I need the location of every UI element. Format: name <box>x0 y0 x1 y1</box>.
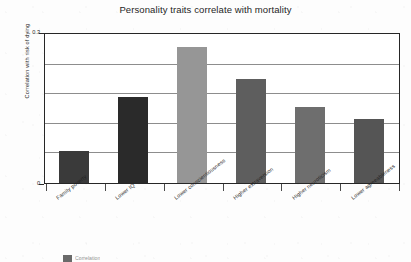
legend-label: Correlation <box>75 255 100 261</box>
bar <box>236 79 266 183</box>
x-axis-tick-mark <box>340 184 341 191</box>
y-axis-tick-label-min: 0 <box>18 180 40 186</box>
legend: Correlation <box>63 255 100 262</box>
chart-title: Personality traits correlate with mortal… <box>0 4 411 15</box>
x-axis-tick-mark <box>105 184 106 191</box>
x-axis-tick-mark <box>164 184 165 191</box>
x-axis-tick-mark <box>223 184 224 191</box>
x-axis-tick-mark <box>46 184 47 191</box>
x-axis: Family povertyLower IQLower conscientiou… <box>44 184 400 262</box>
x-axis-tick-mark <box>281 184 282 191</box>
x-axis-tick-mark <box>399 184 400 191</box>
y-axis-label: Correlation with risk of dying <box>24 0 30 126</box>
x-axis-category-label: Lower IQ <box>114 182 136 201</box>
bar <box>118 97 148 183</box>
y-axis-tick-label-max: 0.3 <box>18 29 40 35</box>
bar <box>177 47 207 183</box>
legend-swatch-icon <box>63 255 72 262</box>
